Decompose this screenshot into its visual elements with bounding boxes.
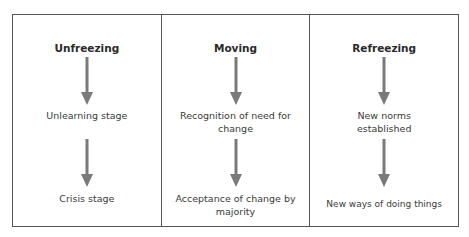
step-label: Unlearning stage xyxy=(17,109,157,122)
step-label: New norms established xyxy=(344,109,424,135)
stage-column-moving: Moving Recognition of need for change Ac… xyxy=(161,15,310,226)
diagram-frame: Unfreezing Unlearning stage Crisis stage… xyxy=(12,14,459,227)
down-arrow-icon xyxy=(81,57,93,105)
stage-title: Unfreezing xyxy=(13,42,161,54)
stage-title: Refreezing xyxy=(310,42,458,54)
down-arrow-icon xyxy=(230,57,242,105)
down-arrow-icon xyxy=(378,57,390,105)
step-label: Recognition of need for change xyxy=(176,109,296,135)
step-label: Acceptance of change by majority xyxy=(170,192,302,218)
stage-column-refreezing: Refreezing New norms established New way… xyxy=(309,15,458,226)
down-arrow-icon xyxy=(81,139,93,187)
stage-title: Moving xyxy=(162,42,310,54)
down-arrow-icon xyxy=(230,139,242,187)
step-label: Crisis stage xyxy=(17,192,157,205)
down-arrow-icon xyxy=(378,139,390,187)
step-label: New ways of doing things xyxy=(310,198,458,211)
stage-column-unfreezing: Unfreezing Unlearning stage Crisis stage xyxy=(13,15,161,226)
